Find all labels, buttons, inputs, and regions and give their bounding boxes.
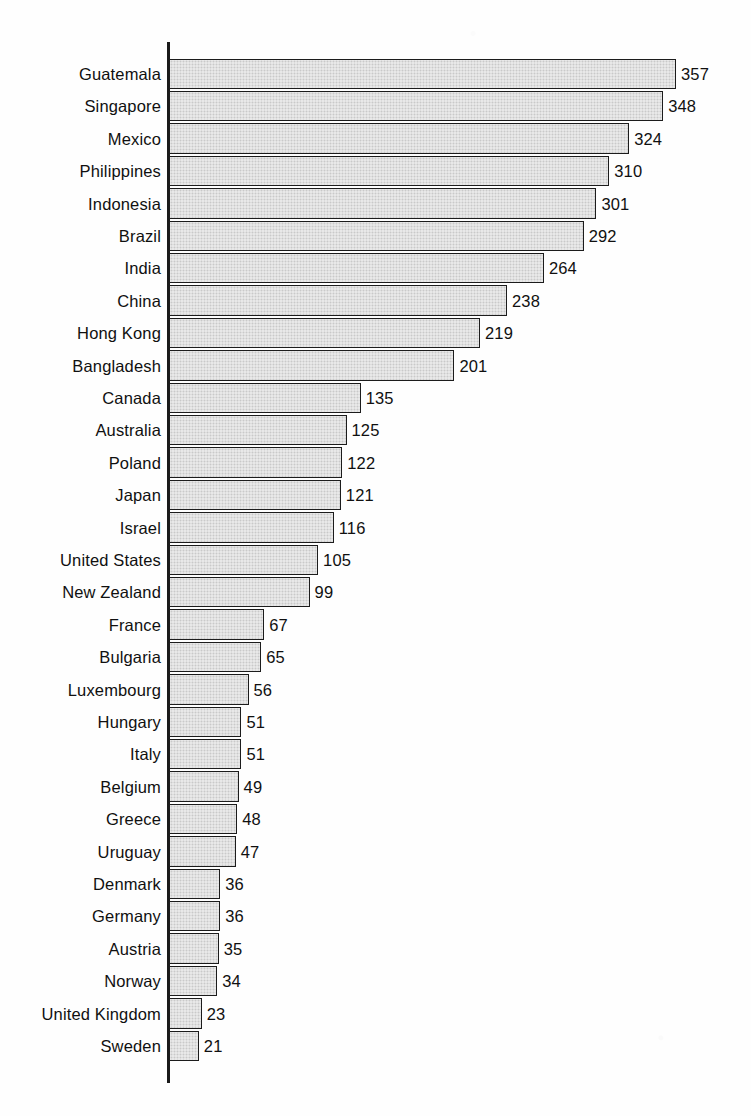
- category-label: Mexico: [108, 123, 161, 155]
- bar: [169, 836, 236, 866]
- category-label: Poland: [109, 447, 161, 479]
- bar-row: Japan121: [0, 479, 751, 511]
- bar: [169, 1031, 199, 1061]
- value-label: 67: [269, 609, 288, 641]
- category-label: Denmark: [93, 868, 161, 900]
- value-label: 36: [225, 868, 244, 900]
- value-label: 219: [485, 317, 513, 349]
- bar: [169, 480, 341, 510]
- bar-row: Belgium49: [0, 771, 751, 803]
- bar-row: Italy51: [0, 738, 751, 770]
- bar: [169, 512, 334, 542]
- category-label: United States: [60, 544, 161, 576]
- bar: [169, 59, 676, 89]
- bar: [169, 285, 507, 315]
- bar-row: Hong Kong219: [0, 317, 751, 349]
- bar-row: Israel116: [0, 512, 751, 544]
- bar-row: Greece48: [0, 803, 751, 835]
- bar-chart: Guatemala357Singapore348Mexico324Philipp…: [0, 0, 751, 1116]
- value-label: 51: [246, 738, 265, 770]
- bar: [169, 188, 596, 218]
- bar: [169, 415, 347, 445]
- value-label: 65: [266, 641, 285, 673]
- bar-row: Australia125: [0, 414, 751, 446]
- bar: [169, 350, 454, 380]
- value-label: 35: [224, 933, 243, 965]
- bar: [169, 577, 310, 607]
- bar-row: Norway34: [0, 965, 751, 997]
- bar: [169, 901, 220, 931]
- bar-row: Uruguay47: [0, 836, 751, 868]
- bar: [169, 739, 241, 769]
- bar-row: Bangladesh201: [0, 350, 751, 382]
- bar-row: Luxembourg56: [0, 674, 751, 706]
- category-label: Indonesia: [88, 188, 161, 220]
- value-label: 99: [315, 576, 334, 608]
- category-label: Canada: [102, 382, 161, 414]
- value-label: 135: [366, 382, 394, 414]
- value-label: 36: [225, 900, 244, 932]
- bar-row: Hungary51: [0, 706, 751, 738]
- category-label: Guatemala: [79, 58, 161, 90]
- category-label: Israel: [120, 512, 161, 544]
- category-label: India: [124, 252, 161, 284]
- category-label: Luxembourg: [68, 674, 161, 706]
- category-label: Uruguay: [98, 836, 161, 868]
- bar: [169, 545, 318, 575]
- value-label: 21: [204, 1030, 223, 1062]
- bar-row: India264: [0, 252, 751, 284]
- category-label: France: [109, 609, 161, 641]
- value-label: 49: [244, 771, 263, 803]
- category-label: China: [117, 285, 161, 317]
- value-label: 310: [614, 155, 642, 187]
- value-label: 47: [241, 836, 260, 868]
- bar: [169, 804, 237, 834]
- value-label: 324: [634, 123, 662, 155]
- bar: [169, 642, 261, 672]
- bar: [169, 674, 249, 704]
- category-label: Hungary: [98, 706, 161, 738]
- category-label: Australia: [95, 414, 161, 446]
- category-label: Bulgaria: [99, 641, 161, 673]
- bar: [169, 318, 480, 348]
- value-label: 122: [347, 447, 375, 479]
- value-label: 125: [352, 414, 380, 446]
- category-label: Italy: [130, 738, 161, 770]
- bar: [169, 447, 342, 477]
- category-label: Philippines: [80, 155, 161, 187]
- bar: [169, 156, 609, 186]
- bar: [169, 707, 241, 737]
- value-label: 23: [207, 998, 226, 1030]
- value-label: 357: [681, 58, 709, 90]
- bar: [169, 609, 264, 639]
- bar: [169, 966, 217, 996]
- category-label: Sweden: [100, 1030, 161, 1062]
- value-label: 201: [459, 350, 487, 382]
- bar-row: Indonesia301: [0, 188, 751, 220]
- bar-row: Bulgaria65: [0, 641, 751, 673]
- value-label: 116: [339, 512, 366, 544]
- bar-row: Brazil292: [0, 220, 751, 252]
- bar-row: Philippines310: [0, 155, 751, 187]
- bar: [169, 253, 544, 283]
- value-label: 238: [512, 285, 540, 317]
- value-label: 301: [601, 188, 629, 220]
- bar-row: United Kingdom23: [0, 998, 751, 1030]
- category-label: Belgium: [100, 771, 161, 803]
- bar-row: France67: [0, 609, 751, 641]
- bar-row: Denmark36: [0, 868, 751, 900]
- value-label: 34: [222, 965, 241, 997]
- category-label: Greece: [106, 803, 161, 835]
- category-label: Brazil: [119, 220, 161, 252]
- category-label: Hong Kong: [77, 317, 161, 349]
- bar: [169, 383, 361, 413]
- category-label: Singapore: [84, 90, 161, 122]
- bar: [169, 221, 584, 251]
- bar-row: United States105: [0, 544, 751, 576]
- bar-row: Singapore348: [0, 90, 751, 122]
- value-label: 292: [589, 220, 617, 252]
- bar: [169, 933, 219, 963]
- category-label: United Kingdom: [41, 998, 161, 1030]
- bar-row: Guatemala357: [0, 58, 751, 90]
- category-label: Austria: [109, 933, 161, 965]
